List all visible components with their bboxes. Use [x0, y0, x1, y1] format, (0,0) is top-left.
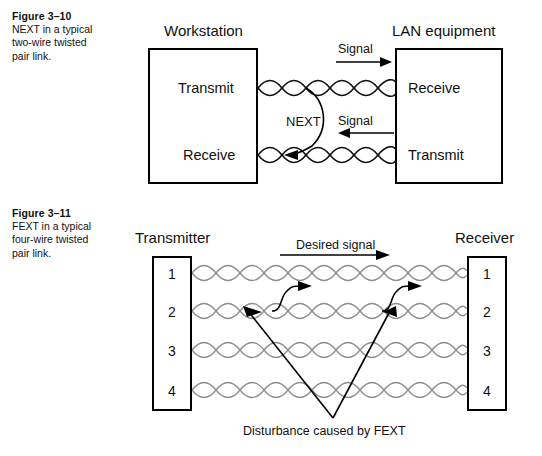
- transmitter-heading: Transmitter: [135, 229, 210, 246]
- next-label: NEXT: [286, 114, 321, 129]
- workstation-box: [148, 48, 258, 184]
- signal-label-top: Signal: [338, 42, 373, 56]
- workstation-transmit-label: Transmit: [178, 80, 234, 96]
- transmitter-pin-1: 1: [152, 266, 192, 282]
- transmitter-pin-2: 2: [152, 304, 192, 320]
- twisted-pair-row-2: [192, 304, 467, 319]
- signal-label-bottom: Signal: [338, 114, 373, 128]
- lan-transmit-label: Transmit: [408, 147, 464, 163]
- transmitter-pin-4: 4: [152, 383, 192, 399]
- lan-receive-label: Receive: [408, 80, 460, 96]
- receiver-pin-1: 1: [467, 266, 507, 282]
- receiver-heading: Receiver: [455, 229, 514, 246]
- lan-equipment-heading: LAN equipment: [392, 22, 495, 39]
- twisted-pair-lower: [258, 147, 396, 164]
- fext-leader-lines: [243, 306, 397, 418]
- twisted-pair-row-3: [192, 343, 467, 358]
- signal-arrow-top: [336, 57, 392, 67]
- receiver-pin-3: 3: [467, 343, 507, 359]
- receiver-pin-2: 2: [467, 304, 507, 320]
- lan-equipment-box: [395, 48, 503, 184]
- workstation-receive-label: Receive: [183, 147, 235, 163]
- twisted-pair-row-1: [192, 266, 467, 281]
- twisted-pair-upper: [258, 80, 396, 97]
- signal-arrow-bottom: [338, 128, 394, 138]
- receiver-pin-4: 4: [467, 383, 507, 399]
- workstation-heading: Workstation: [164, 22, 243, 39]
- twisted-pair-row-4: [192, 383, 467, 398]
- transmitter-pin-3: 3: [152, 343, 192, 359]
- desired-signal-label: Desired signal: [296, 238, 375, 252]
- fext-disturbance-label: Disturbance caused by FEXT: [243, 424, 406, 438]
